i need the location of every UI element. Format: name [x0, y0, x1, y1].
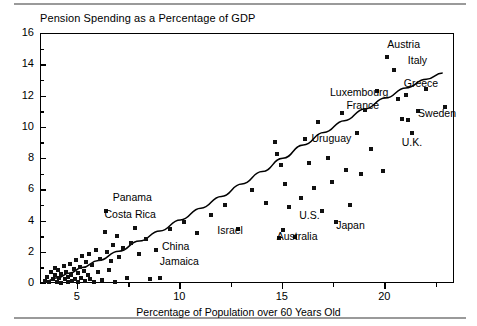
scatter-point	[307, 161, 311, 165]
scatter-point	[68, 262, 72, 266]
scatter-point	[45, 275, 49, 279]
scatter-point	[279, 163, 283, 167]
scatter-point	[82, 269, 86, 273]
point-annotation-label: Australia	[277, 231, 318, 242]
scatter-point	[113, 280, 117, 284]
y-axis-tick-label: 6	[0, 182, 34, 194]
scatter-point	[326, 156, 330, 160]
point-annotation-label: Costa Rica	[105, 209, 156, 220]
scatter-point	[83, 279, 87, 283]
y-axis-tick-label: 12	[0, 89, 34, 101]
point-annotation-label: France	[346, 100, 379, 111]
scatter-point	[87, 252, 91, 256]
scatter-point	[330, 180, 334, 184]
y-axis-minor-tick	[40, 236, 44, 237]
point-annotation-label: Uruguay	[312, 133, 352, 144]
scatter-point	[355, 131, 359, 135]
x-axis-tick	[384, 283, 385, 289]
scatter-point	[209, 213, 213, 217]
scatter-point	[96, 270, 100, 274]
y-axis-minor-tick	[40, 49, 44, 50]
scatter-point	[287, 205, 291, 209]
y-axis-tick-label: 16	[0, 26, 34, 38]
scatter-point	[369, 147, 373, 151]
y-axis-minor-tick	[40, 142, 44, 143]
scatter-point	[158, 276, 162, 280]
scatter-point	[264, 201, 268, 205]
y-axis-tick-label: 2	[0, 245, 34, 257]
scatter-point	[316, 120, 320, 124]
scatter-point	[62, 264, 66, 268]
point-annotation-label: Greece	[404, 78, 438, 89]
scatter-point	[154, 248, 158, 252]
scatter-point	[100, 278, 104, 282]
scatter-point	[392, 68, 396, 72]
y-axis-tick-label: 8	[0, 151, 34, 163]
point-annotation-label: Israel	[217, 225, 243, 236]
scatter-point	[348, 203, 352, 207]
x-axis-tick	[179, 283, 180, 289]
top-divider-rule	[14, 3, 466, 5]
scatter-point	[57, 276, 61, 280]
y-axis-tick-label: 4	[0, 214, 34, 226]
x-axis-title: Percentage of Population over 60 Years O…	[0, 306, 477, 318]
scatter-point	[340, 111, 344, 115]
x-axis-minor-tick	[128, 283, 129, 287]
x-axis-tick-label: 15	[262, 290, 302, 302]
scatter-point	[74, 258, 78, 262]
scatter-point	[344, 168, 348, 172]
scatter-point	[59, 281, 63, 285]
scatter-point	[299, 196, 303, 200]
y-axis-minor-tick	[40, 174, 44, 175]
scatter-point	[133, 226, 137, 230]
scatter-point	[129, 241, 133, 245]
scatter-point	[283, 182, 287, 186]
scatter-point	[410, 131, 414, 135]
scatter-point	[90, 263, 94, 267]
y-axis-tick	[40, 127, 46, 128]
point-annotation-label: Italy	[408, 55, 427, 66]
point-annotation-label: U.S.	[299, 210, 319, 221]
scatter-point	[359, 172, 363, 176]
plot-inner: AustriaItalyGreeceLuxembourgFranceSweden…	[41, 34, 453, 282]
scatter-point	[80, 254, 84, 258]
point-annotation-label: China	[162, 241, 189, 252]
scatter-point	[144, 237, 148, 241]
scatter-point	[195, 231, 199, 235]
y-axis-tick-label: 10	[0, 120, 34, 132]
chart-page: Pension Spending as a Percentage of GDP …	[0, 0, 477, 326]
scatter-point	[98, 257, 102, 261]
x-axis-minor-tick	[231, 283, 232, 287]
y-axis-tick-label: 0	[0, 276, 34, 288]
x-axis-tick	[282, 283, 283, 289]
scatter-point	[103, 230, 107, 234]
scatter-point	[303, 137, 307, 141]
scatter-point	[168, 227, 172, 231]
scatter-point	[107, 268, 111, 272]
scatter-point	[105, 250, 109, 254]
point-annotation-label: U.K.	[402, 137, 422, 148]
scatter-point	[94, 248, 98, 252]
point-annotation-label: Sweden	[418, 108, 456, 119]
point-annotation-label: Panama	[113, 192, 152, 203]
scatter-point	[64, 270, 68, 274]
y-axis-tick	[40, 252, 46, 253]
scatter-point	[76, 271, 80, 275]
scatter-point	[381, 169, 385, 173]
y-axis-tick-label: 14	[0, 57, 34, 69]
y-axis-tick	[40, 158, 46, 159]
point-annotation-label: Austria	[387, 39, 420, 50]
scatter-point	[109, 259, 113, 263]
scatter-point	[404, 93, 408, 97]
x-axis-tick	[77, 283, 78, 289]
scatter-point	[400, 117, 404, 121]
point-annotation-label: Jamaica	[160, 256, 199, 267]
scatter-point	[182, 220, 186, 224]
x-axis-minor-tick	[333, 283, 334, 287]
scatter-point	[111, 243, 115, 247]
scatter-point	[320, 209, 324, 213]
y-axis-minor-tick	[40, 80, 44, 81]
scatter-point	[137, 252, 141, 256]
y-axis-minor-tick	[40, 205, 44, 206]
scatter-point	[92, 280, 96, 284]
